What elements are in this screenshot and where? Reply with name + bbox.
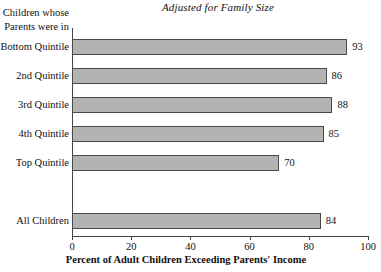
category-label: Bottom Quintile: [0, 39, 69, 55]
bar: [72, 68, 327, 84]
bar: [72, 155, 279, 171]
x-tick-label: 40: [170, 241, 210, 253]
bar-value-label: 85: [329, 126, 340, 142]
category-label: Top Quintile: [0, 155, 69, 171]
x-tick: [131, 236, 132, 240]
x-tick: [72, 236, 73, 240]
category-label: 3rd Quintile: [0, 97, 69, 113]
x-tick: [309, 236, 310, 240]
bar-value-label: 86: [332, 68, 343, 84]
x-tick-label: 80: [289, 241, 329, 253]
bar: [72, 213, 321, 229]
bar: [72, 97, 332, 113]
x-tick-label: 100: [348, 241, 381, 253]
y-axis-header: Children whose Parents were in: [0, 6, 69, 33]
y-axis-header-line-1: Children whose: [0, 6, 69, 20]
bar-value-label: 84: [326, 213, 337, 229]
bar: [72, 126, 324, 142]
x-axis-line: [72, 236, 368, 237]
category-label: All Children: [0, 213, 69, 229]
x-tick-label: 0: [52, 241, 92, 253]
x-axis-title: Percent of Adult Children Exceeding Pare…: [0, 254, 372, 265]
bar-value-label: 88: [337, 97, 348, 113]
bar-value-label: 93: [352, 39, 363, 55]
category-label: 2nd Quintile: [0, 68, 69, 84]
x-tick: [368, 236, 369, 240]
x-tick-label: 20: [111, 241, 151, 253]
y-axis-header-line-2: Parents were in: [0, 20, 69, 34]
category-label: 4th Quintile: [0, 126, 69, 142]
x-tick: [250, 236, 251, 240]
x-tick: [190, 236, 191, 240]
chart-title: Adjusted for Family Size: [118, 1, 318, 13]
plot-area: 020406080100: [72, 28, 368, 236]
bar-value-label: 70: [284, 155, 295, 171]
bar: [72, 39, 347, 55]
x-tick-label: 60: [230, 241, 270, 253]
